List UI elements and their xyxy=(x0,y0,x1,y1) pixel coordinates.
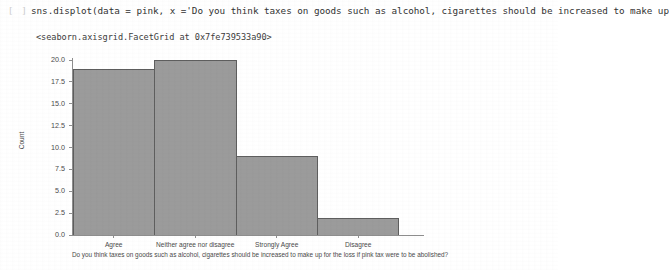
y-axis-tick-label: 2.5 xyxy=(55,208,65,218)
y-axis-tick: 12.5 xyxy=(0,121,72,131)
y-axis-tick-mark xyxy=(69,213,72,214)
y-axis-tick-label: 20.0 xyxy=(51,55,65,65)
y-axis-tick-label: 0.0 xyxy=(55,230,65,240)
x-axis-tick-mark xyxy=(195,235,196,238)
execution-prompt-indicator: [ ] xyxy=(0,4,31,18)
y-axis-tick-label: 12.5 xyxy=(51,121,65,131)
plot-area xyxy=(73,60,399,235)
y-axis-tick-mark xyxy=(69,147,72,148)
y-axis-tick-mark xyxy=(69,191,72,192)
seaborn-displot-figure: Count 0.02.55.07.510.012.515.017.520.0 A… xyxy=(0,48,558,270)
x-axis-tick-mark xyxy=(358,235,359,238)
code-source-line[interactable]: sns.displot(data = pink, x ='Do you thin… xyxy=(31,4,669,18)
y-axis-tick-mark xyxy=(69,169,72,170)
y-axis-title: Count xyxy=(17,111,26,171)
y-axis-tick-mark xyxy=(69,235,72,236)
y-axis-tick-label: 5.0 xyxy=(55,186,65,196)
x-axis-tick-mark xyxy=(113,235,114,238)
y-axis-tick: 5.0 xyxy=(0,186,72,196)
y-axis-tick-mark xyxy=(69,81,72,82)
y-axis-tick: 0.0 xyxy=(0,230,72,240)
y-axis-tick: 7.5 xyxy=(0,164,72,174)
y-axis-tick: 20.0 xyxy=(0,55,72,65)
y-axis-tick-mark xyxy=(69,125,72,126)
bar xyxy=(236,156,318,235)
y-axis-tick-mark xyxy=(69,103,72,104)
y-axis-tick-mark xyxy=(69,60,72,61)
y-axis-tick: 17.5 xyxy=(0,77,72,87)
bar-series xyxy=(73,60,399,235)
y-axis-tick: 2.5 xyxy=(0,208,72,218)
y-axis-tick-label: 15.0 xyxy=(51,99,65,109)
code-input-row[interactable]: [ ] sns.displot(data = pink, x ='Do you … xyxy=(0,4,558,20)
y-axis-tick-label: 7.5 xyxy=(55,164,65,174)
y-axis-tick-label: 17.5 xyxy=(51,77,65,87)
x-axis-title: Do you think taxes on goods such as alco… xyxy=(0,250,520,259)
x-axis-tick-mark xyxy=(276,235,277,238)
bar xyxy=(154,60,236,235)
bar xyxy=(317,218,399,236)
y-axis-tick: 15.0 xyxy=(0,99,72,109)
x-axis-tick-label: Disagree xyxy=(298,240,420,249)
bar xyxy=(73,69,155,235)
y-axis-tick: 10.0 xyxy=(0,143,72,153)
cell-output-repr: <seaborn.axisgrid.FacetGrid at 0x7fe7395… xyxy=(36,31,272,43)
y-axis-tick-label: 10.0 xyxy=(51,143,65,153)
